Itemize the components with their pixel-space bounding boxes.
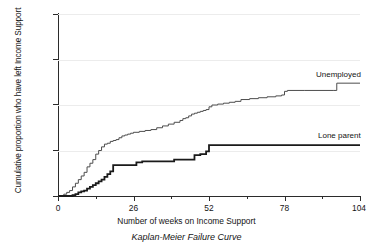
- series-label-unemployed: Unemployed: [316, 70, 361, 79]
- x-tick-label-78: 78: [280, 203, 289, 213]
- series-line-lone-parent: [58, 145, 360, 196]
- x-tick-mark-91: [322, 196, 323, 199]
- x-tick-mark-26: [134, 196, 135, 201]
- kaplan-meier-figure: Cumulative proportion who have left Inco…: [0, 0, 373, 250]
- x-tick-mark-78: [285, 196, 286, 201]
- x-tick-mark-65: [247, 196, 248, 199]
- figure-caption: Kaplan-Meier Failure Curve: [0, 232, 373, 242]
- x-tick-label-104: 104: [352, 203, 366, 213]
- x-tick-mark-13: [96, 196, 97, 199]
- x-tick-label-26: 26: [129, 203, 138, 213]
- x-tick-label-52: 52: [204, 203, 213, 213]
- x-tick-mark-52: [209, 196, 210, 201]
- x-axis-title: Number of weeks on Income Support: [0, 216, 373, 226]
- series-label-lone-parent: Lone parent: [318, 131, 361, 140]
- x-tick-label-0: 0: [56, 203, 61, 213]
- x-tick-mark-39: [171, 196, 172, 199]
- plot-area: [58, 14, 360, 196]
- x-tick-mark-104: [360, 196, 361, 201]
- x-tick-mark-0: [58, 196, 59, 201]
- curves-svg: [58, 14, 360, 196]
- y-axis-title: Cumulative proportion who have left Inco…: [14, 1, 23, 201]
